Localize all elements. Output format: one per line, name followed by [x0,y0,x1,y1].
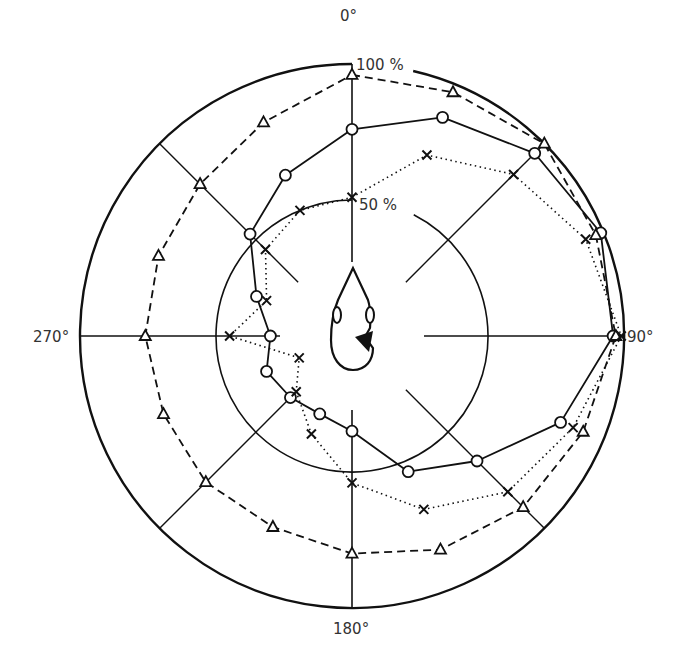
circle-marker-icon [347,124,358,135]
circle-marker-icon [347,426,358,437]
polar-chart: 0° 90° 180° 270° 100 % 50 % [0,0,691,660]
spoke-45 [406,144,544,282]
axis-labels: 0° 90° 180° 270° 100 % 50 % [33,7,654,638]
cross-marker-icon [422,151,431,160]
spoke-315 [160,144,298,282]
axis-label-0: 0° [340,7,357,25]
cross-marker-icon [509,170,518,179]
sound-source-wedge-icon [355,331,373,352]
circle-marker-icon [555,417,566,428]
circle-marker-icon [403,466,414,477]
circle-marker-icon [261,366,272,377]
cross-marker-icon [419,505,428,514]
circle-marker-icon [314,408,325,419]
cross-marker-icon [295,353,304,362]
triangle-marker-icon [153,250,164,260]
triangle-marker-icon [435,544,446,554]
triangle-marker-icon [267,521,278,531]
axis-label-270: 270° [33,328,69,346]
circle-marker-icon [529,148,540,159]
right-ear-icon [366,307,374,323]
head-figure-icon [331,268,374,370]
axis-label-90: 90° [627,328,654,346]
series-crosses [225,151,626,514]
cross-marker-icon [503,487,512,496]
cross-marker-icon [261,245,270,254]
triangle-marker-icon [158,408,169,418]
circle-marker-icon [280,170,291,181]
cross-marker-icon [581,235,590,244]
series-layer [140,69,626,558]
ring-label-50: 50 % [359,196,397,214]
circle-marker-icon [245,229,256,240]
circle-marker-icon [251,291,262,302]
cross-marker-icon [569,423,578,432]
circle-marker-icon [437,112,448,123]
spoke-225 [160,390,298,528]
ring-label-100: 100 % [356,56,404,74]
cross-marker-icon [307,430,316,439]
series-circles [245,112,619,477]
cross-marker-icon [262,296,271,305]
circle-marker-icon [265,331,276,342]
series-triangles [140,69,622,558]
triangle-marker-icon [258,116,269,126]
left-ear-icon [333,307,341,323]
circle-marker-icon [472,456,483,467]
triangle-marker-icon [140,330,151,340]
axis-label-180: 180° [333,620,369,638]
triangle-marker-icon [578,426,589,436]
